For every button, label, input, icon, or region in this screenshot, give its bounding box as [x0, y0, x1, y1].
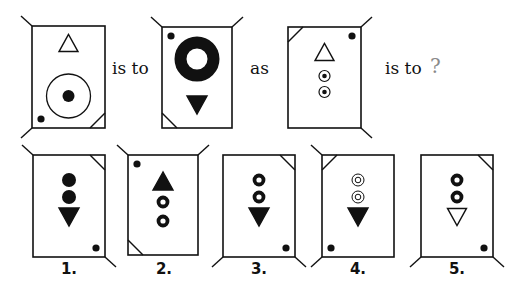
corner-stub: [21, 128, 32, 138]
frame: [322, 155, 394, 257]
corner-dot: [37, 115, 44, 122]
center-dot-icon: [322, 74, 327, 79]
is-to-text-1: is to: [112, 58, 149, 78]
corner-dot: [348, 32, 355, 39]
answer-option-4[interactable]: [311, 145, 394, 267]
analogy-puzzle: is to as is to ? 1. 2. 3. 4. 5.: [0, 0, 523, 287]
answer-label-4[interactable]: 4.: [338, 260, 378, 278]
as-text: as: [250, 58, 269, 78]
corner-dot: [167, 32, 174, 39]
corner-dot: [133, 160, 140, 167]
corner-stub: [198, 145, 209, 155]
frame: [223, 155, 295, 257]
corner-stub: [212, 257, 223, 267]
corner-stub: [361, 128, 372, 138]
frame: [33, 155, 105, 257]
frame: [421, 155, 493, 257]
corner-dot: [327, 244, 334, 251]
corner-dot: [480, 244, 487, 251]
answer-label-5[interactable]: 5.: [437, 260, 477, 278]
corner-stub: [410, 257, 421, 267]
answer-label-1[interactable]: 1.: [49, 260, 89, 278]
answer-option-3[interactable]: [212, 155, 306, 267]
answer-label-3[interactable]: 3.: [239, 260, 279, 278]
corner-stub: [311, 257, 322, 267]
puzzle-figures: [0, 0, 523, 287]
corner-stub: [22, 145, 33, 155]
corner-stub: [105, 257, 116, 267]
corner-dot: [282, 244, 289, 251]
solid-circle-icon: [62, 190, 76, 204]
corner-stub: [21, 16, 32, 26]
corner-stub: [232, 17, 243, 27]
figure-B: [151, 17, 243, 128]
corner-stub: [493, 257, 504, 267]
corner-stub: [151, 17, 162, 27]
answer-option-5[interactable]: [410, 155, 504, 267]
figure-A: [21, 16, 105, 138]
center-dot-icon: [63, 90, 75, 102]
corner-stub: [361, 17, 372, 27]
corner-stub: [295, 257, 306, 267]
corner-stub: [311, 145, 322, 155]
corner-dot: [92, 244, 99, 251]
question-mark: ?: [430, 54, 441, 78]
answer-option-1[interactable]: [22, 145, 116, 267]
is-to-text-2: is to: [385, 58, 422, 78]
answer-label-2[interactable]: 2.: [144, 260, 184, 278]
answer-option-2[interactable]: [117, 145, 209, 255]
center-dot-icon: [322, 90, 327, 95]
corner-stub: [117, 145, 128, 155]
figure-C: [288, 17, 372, 138]
solid-circle-icon: [62, 173, 76, 187]
